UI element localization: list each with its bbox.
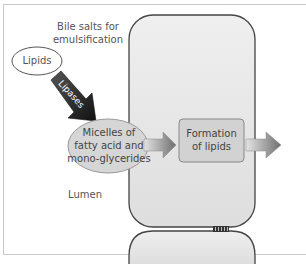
micelles-line2: fatty acid and (66, 139, 152, 152)
tight-junction-icon (213, 226, 229, 232)
lipids-label: Lipids (12, 54, 62, 67)
formation-line2: of lipids (179, 140, 244, 153)
lumen-label: Lumen (60, 188, 110, 201)
bile-salts-line1: Bile salts for (50, 20, 126, 33)
bile-salts-line2: emulsification (50, 33, 126, 46)
formation-label: Formation of lipids (179, 127, 244, 153)
diagram-canvas (0, 0, 306, 264)
micelles-label: Micelles of fatty acid and mono-glycerid… (66, 126, 152, 165)
micelles-line3: mono-glycerides (66, 152, 152, 165)
bile-salts-label: Bile salts for emulsification (50, 20, 126, 46)
lower-enterocyte-cell (129, 231, 255, 264)
formation-line1: Formation (179, 127, 244, 140)
micelles-line1: Micelles of (66, 126, 152, 139)
